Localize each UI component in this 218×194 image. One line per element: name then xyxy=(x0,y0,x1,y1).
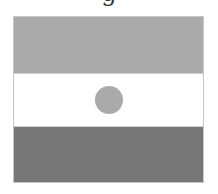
caption-text: g xyxy=(0,0,218,8)
flag-disc-icon xyxy=(95,86,123,114)
flag-top-band xyxy=(14,17,203,73)
flag-bottom-band xyxy=(14,127,203,182)
flag xyxy=(13,16,204,183)
flag-middle-band xyxy=(14,73,203,127)
